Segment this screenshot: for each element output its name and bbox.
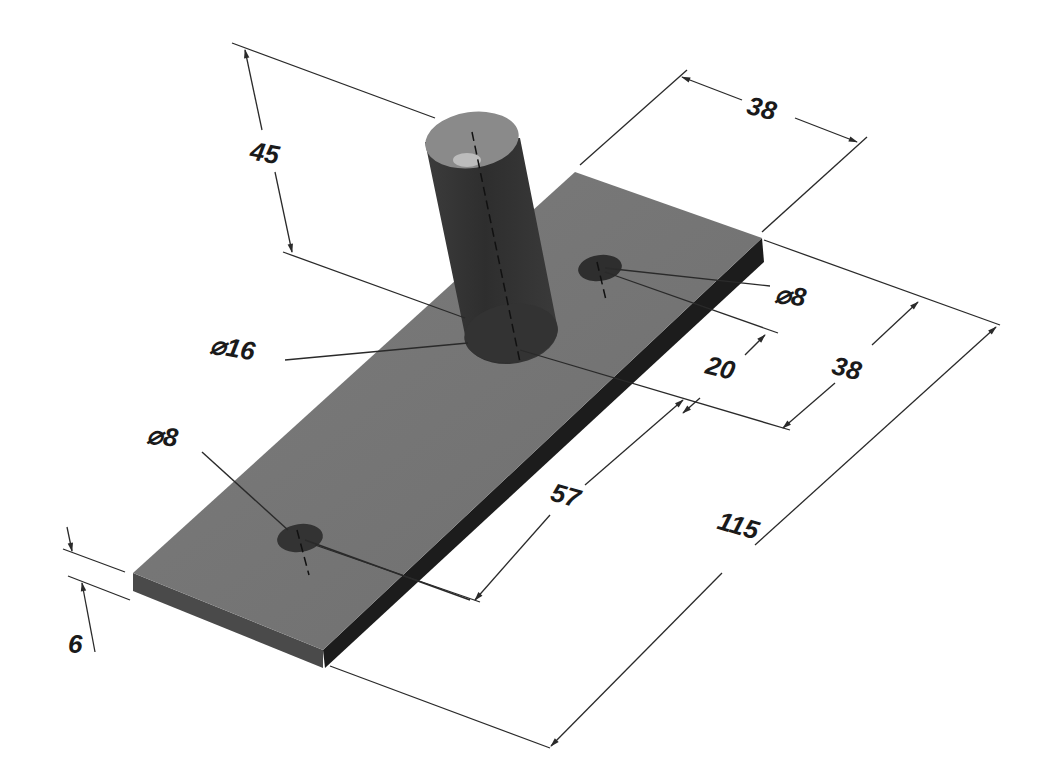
dim-label-115: 115 (714, 505, 763, 545)
technical-drawing: 45 38 ⌀8 20 38 57 (0, 0, 1052, 762)
dim-label-dia8-front: ⌀8 (146, 419, 181, 453)
dim-label-45: 45 (247, 135, 282, 170)
dim-label-6: 6 (68, 629, 83, 659)
dim-label-38-top: 38 (744, 90, 780, 126)
dim-thickness: 6 (63, 527, 130, 659)
dim-label-dia8-back: ⌀8 (773, 278, 809, 313)
dim-label-dia16: ⌀16 (208, 329, 258, 366)
dim-label-38-right: 38 (829, 350, 865, 386)
cylinder-top-highlight (453, 153, 481, 167)
dim-label-57: 57 (548, 477, 586, 514)
dim-pin-height: 45 (232, 43, 465, 318)
dim-label-20: 20 (702, 349, 739, 385)
